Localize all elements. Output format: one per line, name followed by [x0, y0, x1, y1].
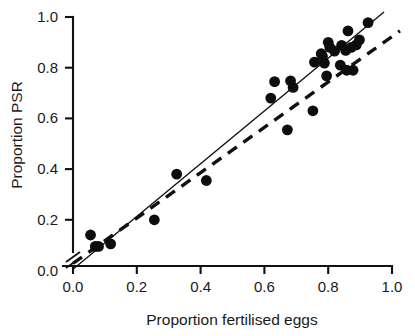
- x-axis-ticks: 0.00.20.40.60.81.0: [63, 266, 403, 295]
- data-points: [85, 17, 373, 252]
- data-point: [269, 76, 280, 87]
- y-tick-label: 1.0: [37, 8, 58, 25]
- data-point: [265, 93, 276, 104]
- data-point: [105, 238, 116, 249]
- y-tick-label: 0.0: [37, 262, 58, 279]
- data-point: [201, 175, 212, 186]
- data-point: [354, 34, 365, 45]
- y-tick-label: 0.4: [37, 160, 58, 177]
- data-point: [348, 65, 359, 76]
- data-point: [319, 58, 330, 69]
- data-point: [343, 26, 354, 37]
- y-tick-label: 0.2: [37, 211, 58, 228]
- x-tick-label: 0.6: [254, 278, 275, 295]
- y-axis-ticks: 0.00.20.40.60.81.0: [37, 8, 73, 279]
- data-point: [93, 241, 104, 252]
- y-tick-label: 0.8: [37, 59, 58, 76]
- data-point: [149, 214, 160, 225]
- y-axis-title: Proportion PSR: [8, 81, 25, 189]
- plot-canvas: 0.00.20.40.60.81.0 0.00.20.40.60.81.0 Pr…: [0, 0, 415, 336]
- x-tick-label: 1.0: [382, 278, 403, 295]
- data-point: [85, 230, 96, 241]
- x-tick-label: 0.4: [190, 278, 211, 295]
- x-axis-title: Proportion fertilised eggs: [146, 311, 318, 328]
- scatter-plot-figure: 0.00.20.40.60.81.0 0.00.20.40.60.81.0 Pr…: [0, 0, 415, 336]
- data-point: [321, 70, 332, 81]
- x-tick-label: 0.8: [318, 278, 339, 295]
- data-point: [307, 105, 318, 116]
- data-point: [282, 124, 293, 135]
- x-tick-label: 0.2: [126, 278, 147, 295]
- data-point: [288, 82, 299, 93]
- data-point: [363, 17, 374, 28]
- data-point: [171, 169, 182, 180]
- x-tick-label: 0.0: [63, 278, 84, 295]
- y-tick-label: 0.6: [37, 109, 58, 126]
